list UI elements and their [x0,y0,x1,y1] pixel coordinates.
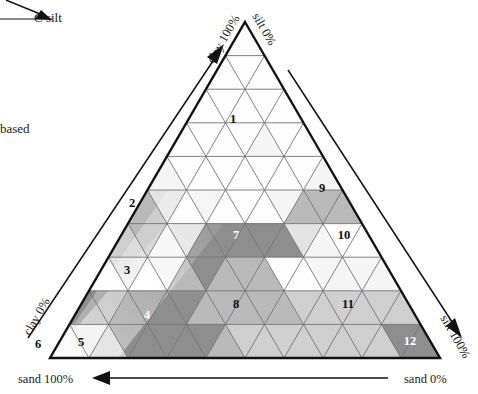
sand-axis-arrow [92,371,388,385]
axis-label-sand-100: sand 100% [18,372,73,386]
ternary-class-label-12: 12 [404,334,417,348]
axis-label-sand-0: sand 0% [404,372,447,386]
top-left-note: C silt [34,10,62,25]
ternary-class-label-4: 4 [144,308,151,322]
ternary-class-label-2: 2 [129,196,135,210]
ternary-class-label-3: 3 [124,263,130,277]
ternary-class-label-11: 11 [342,297,354,311]
ternary-class-label-10: 10 [338,228,351,242]
ternary-class-label-8: 8 [233,297,239,311]
left-note: based [0,121,30,136]
axis-label-clay-0: clay 0% [20,295,52,337]
ternary-class-label-1: 1 [230,112,236,126]
ternary-diagram-canvas: clay 100% silt 0% clay 0% silt 100% sand… [0,0,478,394]
ternary-class-label-7: 7 [233,228,239,242]
ternary-diagram-figure: clay 100% silt 0% clay 0% silt 100% sand… [0,0,478,394]
ternary-class-label-9: 9 [319,181,325,195]
ternary-class-label-5: 5 [78,335,84,349]
ternary-class-label-6: 6 [35,337,41,351]
